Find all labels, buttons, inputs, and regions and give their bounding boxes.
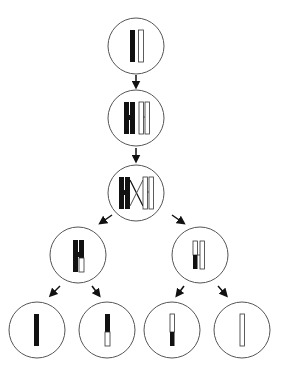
daughter-cell-right [172, 227, 228, 283]
crossing-over-cell [108, 165, 164, 221]
light-chromosome [139, 30, 144, 62]
gamete-4 [214, 302, 270, 358]
arrow-down-right-icon [172, 215, 182, 222]
arrow-down-left-icon [52, 286, 60, 294]
gamete-3 [144, 302, 200, 358]
daughter-cell-left [50, 227, 106, 283]
gamete-1 [9, 302, 65, 358]
gamete-2 [79, 302, 135, 358]
arrow-down-right-icon [92, 286, 98, 294]
dark-chromosome [130, 30, 135, 62]
meiosis-diagram [0, 0, 285, 368]
arrow-down-left-icon [178, 286, 184, 294]
replicated-cell [108, 90, 164, 146]
parent-cell [108, 18, 164, 74]
arrow-down-right-icon [218, 286, 225, 294]
arrow-down-left-icon [102, 215, 112, 222]
